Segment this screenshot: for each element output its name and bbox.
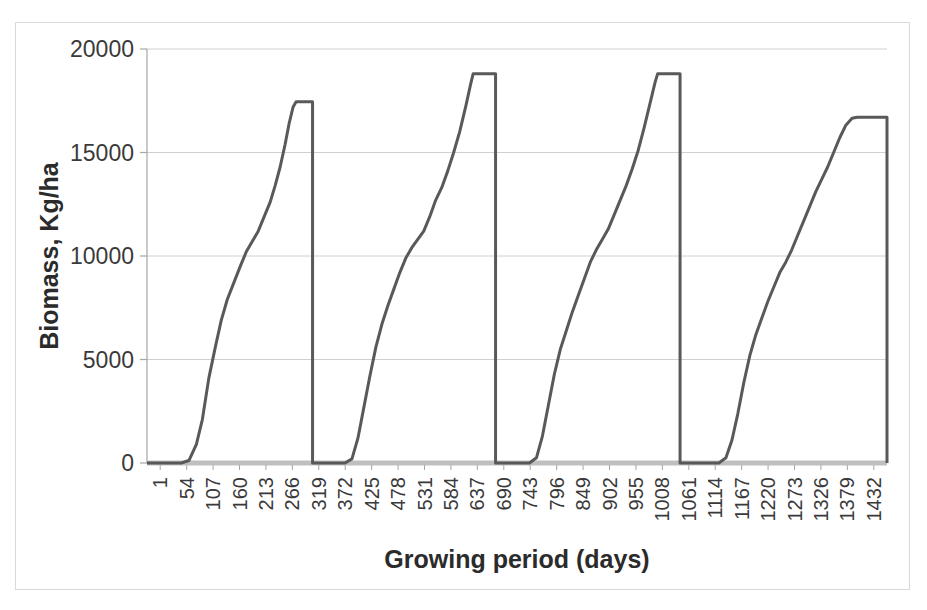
x-tick-label: 425 — [361, 477, 383, 510]
x-tick-label: 902 — [599, 477, 621, 510]
x-tick-label: 1114 — [704, 477, 726, 519]
x-tick-label: 1379 — [836, 477, 858, 522]
figure-container: 0500010000150002000015410716021326631937… — [0, 0, 927, 610]
x-tick-label: 1326 — [810, 477, 832, 522]
x-tick-label: 584 — [440, 477, 462, 510]
x-tick-label: 955 — [625, 477, 647, 510]
x-tick-labels: 1541071602132663193724254785315846376907… — [149, 465, 885, 522]
x-tick-label: 637 — [466, 477, 488, 510]
y-tick-label: 10000 — [70, 243, 134, 269]
y-axis-title: Biomass, Kg/ha — [35, 161, 63, 350]
y-tick-label: 20000 — [70, 36, 134, 62]
y-tick-labels: 05000100001500020000 — [70, 36, 134, 476]
x-tick-label: 213 — [255, 477, 277, 510]
x-tick-label: 1008 — [651, 477, 673, 522]
x-tick-label: 1220 — [757, 477, 779, 522]
x-tick-label: 160 — [229, 477, 251, 510]
x-tick-label: 743 — [519, 477, 541, 510]
y-gridlines — [140, 49, 887, 463]
y-tick-label: 5000 — [83, 347, 134, 373]
biomass-series-line[interactable] — [147, 74, 887, 463]
x-tick-label: 54 — [176, 477, 198, 499]
x-tick-label: 796 — [546, 477, 568, 510]
x-axis-title: Growing period (days) — [384, 545, 649, 573]
x-tick-label: 1 — [149, 477, 171, 488]
y-tick-label: 0 — [121, 450, 134, 476]
x-tick-label: 849 — [572, 477, 594, 510]
x-tick-label: 107 — [202, 477, 224, 510]
x-tick-label: 319 — [308, 477, 330, 510]
x-tick-label: 1273 — [784, 477, 806, 522]
y-tick-label: 15000 — [70, 140, 134, 166]
x-tick-label: 266 — [281, 477, 303, 510]
x-tick-label: 478 — [387, 477, 409, 510]
x-tick-label: 1432 — [863, 477, 885, 522]
figure-border: 0500010000150002000015410716021326631937… — [15, 22, 910, 590]
x-tick-label: 690 — [493, 477, 515, 510]
x-tick-label: 372 — [334, 477, 356, 510]
biomass-growing-period-chart[interactable]: 0500010000150002000015410716021326631937… — [16, 23, 909, 589]
x-tick-label: 1061 — [678, 477, 700, 522]
x-tick-label: 1167 — [731, 477, 753, 520]
x-tick-label: 531 — [414, 477, 436, 510]
